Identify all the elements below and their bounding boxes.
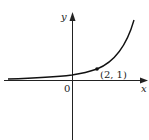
y-axis-arrow-icon	[70, 12, 76, 21]
y-axis-label: y	[60, 11, 67, 22]
graph: y x 0 (2, 1)	[0, 0, 149, 140]
x-axis-label: x	[141, 83, 147, 94]
point-2-1	[95, 67, 99, 71]
point-label: (2, 1)	[100, 69, 127, 80]
origin-label: 0	[64, 83, 70, 94]
